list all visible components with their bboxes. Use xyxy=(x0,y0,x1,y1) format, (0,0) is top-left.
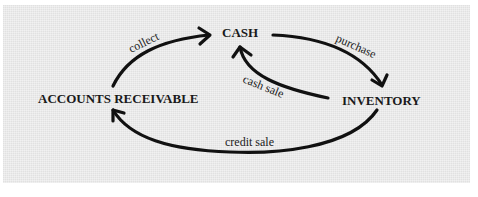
purchase-arrow xyxy=(273,35,387,86)
credit-sale-label: credit sale xyxy=(225,135,274,149)
node-cash: CASH xyxy=(222,25,258,40)
node-accounts-receivable: ACCOUNTS RECEIVABLE xyxy=(38,91,199,106)
collect-arrow xyxy=(113,28,210,86)
cash-cycle-diagram: collect purchase cash sale credit sale C… xyxy=(0,0,478,197)
node-inventory: INVENTORY xyxy=(342,93,421,108)
